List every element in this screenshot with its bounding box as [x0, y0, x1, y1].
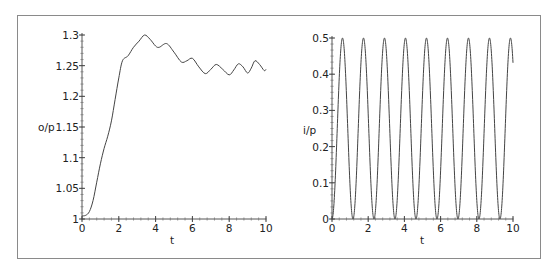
output-chart-axes: 024681011.051.11.151.21.251.3 [56, 29, 273, 234]
plots-canvas: 024681011.051.11.151.21.251.3 o/p t 0246… [0, 0, 557, 276]
output-chart-y-tick-label: 1.15 [56, 121, 79, 133]
input-chart-x-tick-label: 6 [437, 222, 444, 234]
output-chart-x-tick-label: 2 [115, 222, 122, 234]
output-curve [82, 35, 266, 216]
output-x-axis-label: t [170, 234, 174, 246]
output-chart-x-tick-label: 6 [189, 222, 196, 234]
input-chart-x-tick-label: 0 [329, 222, 336, 234]
input-y-axis-label: i/p [303, 124, 316, 136]
output-y-axis-label: o/p [38, 121, 55, 133]
input-chart-y-tick-label: 0.2 [312, 141, 329, 153]
output-chart-y-tick-label: 1.3 [62, 29, 79, 41]
output-chart-y-tick-label: 1.25 [56, 60, 79, 72]
output-chart: 024681011.051.11.151.21.251.3 o/p t [38, 29, 273, 246]
output-chart-x-tick-label: 10 [259, 222, 272, 234]
input-chart-y-tick-label: 0.1 [312, 177, 329, 189]
output-chart-y-tick-label: 1.1 [62, 152, 79, 164]
output-chart-y-tick-label: 1.05 [56, 182, 79, 194]
output-chart-x-tick-label: 0 [79, 222, 86, 234]
input-chart-y-tick-label: 0.4 [312, 68, 329, 80]
input-chart-x-tick-label: 10 [506, 222, 519, 234]
output-chart-x-tick-label: 4 [152, 222, 159, 234]
output-chart-x-tick-label: 8 [226, 222, 233, 234]
input-chart-y-tick-label: 0.5 [312, 32, 329, 44]
input-curve [332, 38, 513, 219]
input-chart-x-tick-label: 2 [365, 222, 372, 234]
input-chart-axes: 024681000.10.20.30.40.5 [312, 32, 519, 234]
output-chart-y-tick-label: 1.2 [62, 90, 79, 102]
input-chart: 024681000.10.20.30.40.5 i/p t [303, 32, 520, 246]
input-chart-x-tick-label: 4 [401, 222, 408, 234]
input-chart-y-tick-label: 0.3 [312, 104, 329, 116]
input-chart-x-tick-label: 8 [473, 222, 480, 234]
input-chart-y-tick-label: 0 [322, 213, 329, 225]
input-x-axis-label: t [420, 234, 424, 246]
output-chart-y-tick-label: 1 [72, 213, 79, 225]
